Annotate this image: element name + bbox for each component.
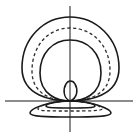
polar-curve-plot: [0, 0, 139, 138]
figure-container: [0, 0, 139, 138]
